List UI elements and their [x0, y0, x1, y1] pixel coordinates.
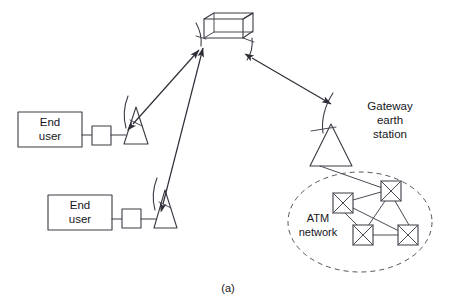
end-user-top-label-line1: End — [40, 116, 60, 128]
end-user-top-group: End user — [18, 96, 148, 147]
atm-switch-4 — [398, 225, 418, 245]
atm-network-label-line1: ATM — [307, 212, 329, 224]
atm-switch-1 — [333, 193, 353, 213]
satellite-network-diagram: End user End user — [0, 0, 460, 307]
atm-link-2-4 — [395, 201, 409, 225]
end-user-bottom-label-line1: End — [70, 199, 90, 211]
terminal-bottom-dish-icon — [153, 178, 157, 210]
end-user-bottom-group: End user — [48, 178, 177, 230]
satellite-antenna-left-icon — [196, 23, 201, 46]
figure-caption: (a) — [221, 282, 234, 294]
link-terminal-top-satellite — [133, 50, 199, 124]
atm-network-label-line2: network — [299, 226, 338, 238]
atm-switch-3 — [353, 225, 373, 245]
gateway-label-line2: earth — [377, 114, 403, 126]
gateway-label-line3: station — [373, 128, 407, 140]
end-user-top-label-line2: user — [39, 130, 62, 142]
link-terminal-bottom-satellite — [163, 48, 203, 204]
link-satellite-gateway — [252, 58, 331, 104]
atm-network-group: ATM network — [288, 166, 432, 272]
link-gateway-atm — [320, 166, 391, 191]
atm-link-1-3 — [345, 213, 358, 226]
end-user-bottom-label-line2: user — [69, 213, 92, 225]
satellite — [196, 13, 254, 60]
terminal-top-dish-icon — [124, 96, 128, 128]
satellite-body-icon — [204, 13, 253, 38]
gateway-earth-station-group: Gateway earth station — [310, 93, 413, 166]
atm-link-1-2 — [353, 192, 381, 200]
diagram-canvas: End user End user — [0, 0, 460, 307]
atm-switch-2 — [381, 181, 401, 201]
gateway-label-line1: Gateway — [367, 100, 413, 112]
